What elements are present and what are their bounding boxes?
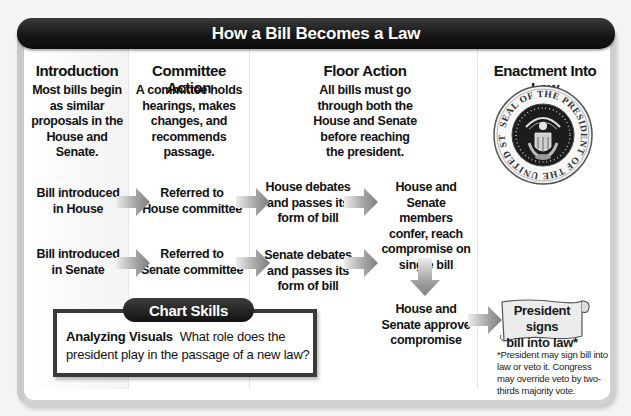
desc-line: the president. bbox=[300, 145, 430, 161]
veto-footnote: *President may sign bill into law or vet… bbox=[497, 349, 609, 397]
arrow-right-icon bbox=[236, 249, 270, 277]
column-divider-3 bbox=[477, 49, 478, 389]
arrow-right-icon bbox=[344, 249, 378, 277]
step-line: confer, reach bbox=[380, 227, 472, 243]
desc-line: hearings, makes bbox=[130, 99, 248, 115]
desc-line: A committee holds bbox=[130, 83, 248, 99]
step-bill-introduced-house: Bill introduced in House bbox=[30, 186, 126, 217]
desc-line: House and Senate bbox=[300, 114, 430, 130]
step-line: President signs bbox=[498, 303, 586, 335]
description-floor-action: All bills must go through both the House… bbox=[300, 83, 430, 161]
arrow-down-icon bbox=[410, 258, 440, 296]
step-line: Referred to bbox=[140, 247, 244, 263]
title-bar: How a Bill Becomes a Law bbox=[17, 18, 615, 49]
step-line: and passes its bbox=[265, 196, 351, 212]
desc-line: All bills must go bbox=[300, 83, 430, 99]
desc-line: House and bbox=[28, 130, 126, 146]
step-line: House debates bbox=[265, 180, 351, 196]
desc-line: through both the bbox=[300, 99, 430, 115]
step-president-signs: President signs bill into law* bbox=[498, 303, 586, 351]
skills-lead: Analyzing Visuals bbox=[66, 329, 173, 344]
description-committee-action: A committee holds hearings, makes change… bbox=[130, 83, 248, 161]
step-line: in House bbox=[30, 202, 126, 218]
arrow-right-icon bbox=[116, 188, 150, 216]
chart-skills-tab: Chart Skills bbox=[123, 298, 254, 322]
step-line: Senate approve bbox=[380, 318, 472, 334]
heading-introduction: Introduction bbox=[28, 62, 126, 79]
arrow-right-icon bbox=[116, 249, 150, 277]
desc-line: Senate. bbox=[28, 145, 126, 161]
step-line: Referred to bbox=[142, 186, 242, 202]
desc-line: changes, and bbox=[130, 114, 248, 130]
step-line: compromise on bbox=[380, 242, 472, 258]
step-line: Bill introduced bbox=[30, 247, 126, 263]
step-line: House and bbox=[380, 180, 472, 196]
step-line: form of bill bbox=[265, 211, 351, 227]
desc-line: as similar bbox=[28, 99, 126, 115]
arrow-right-icon bbox=[468, 306, 502, 334]
step-approve-compromise: House and Senate approve compromise bbox=[380, 302, 472, 349]
step-line: Senate members bbox=[380, 196, 472, 227]
presidential-seal-icon: SEAL OF THE PRESIDENT OF THE UNITED STAT… bbox=[493, 85, 593, 185]
chart-skills-question: Analyzing Visuals What role does the pre… bbox=[66, 328, 310, 364]
desc-line: before reaching bbox=[300, 130, 430, 146]
step-line: compromise bbox=[380, 333, 472, 349]
desc-line: Most bills begin bbox=[28, 83, 126, 99]
step-line: and passes its bbox=[264, 264, 352, 280]
step-line: Bill introduced bbox=[30, 186, 126, 202]
step-line: Senate committee bbox=[140, 263, 244, 279]
step-line: Senate debates bbox=[264, 248, 352, 264]
step-referred-house-committee: Referred to House committee bbox=[142, 186, 242, 217]
step-line: House and bbox=[380, 302, 472, 318]
chart-skills-label: Chart Skills bbox=[149, 302, 228, 319]
arrow-right-icon bbox=[236, 188, 270, 216]
step-senate-debates: Senate debates and passes its form of bi… bbox=[264, 248, 352, 295]
step-line: form of bill bbox=[264, 279, 352, 295]
step-line: in Senate bbox=[30, 263, 126, 279]
step-house-debates: House debates and passes its form of bil… bbox=[265, 180, 351, 227]
chart-title: How a Bill Becomes a Law bbox=[212, 24, 421, 44]
step-bill-introduced-senate: Bill introduced in Senate bbox=[30, 247, 126, 278]
step-line: House committee bbox=[142, 202, 242, 218]
desc-line: proposals in the bbox=[28, 114, 126, 130]
arrow-right-icon bbox=[344, 188, 378, 216]
step-referred-senate-committee: Referred to Senate committee bbox=[140, 247, 244, 278]
heading-floor-action: Floor Action bbox=[300, 62, 430, 79]
desc-line: passage. bbox=[130, 145, 248, 161]
desc-line: recommends bbox=[130, 130, 248, 146]
description-introduction: Most bills begin as similar proposals in… bbox=[28, 83, 126, 161]
